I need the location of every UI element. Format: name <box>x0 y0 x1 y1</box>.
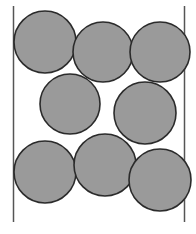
sphere-packing-figure <box>0 0 196 234</box>
sphere-1 <box>14 11 76 73</box>
sphere-8 <box>129 149 191 211</box>
figure-canvas <box>0 0 196 234</box>
sphere-7 <box>74 134 136 196</box>
sphere-5 <box>114 82 176 144</box>
sphere-6 <box>14 141 76 203</box>
sphere-2 <box>73 22 133 82</box>
sphere-3 <box>130 22 190 82</box>
sphere-4 <box>40 74 100 134</box>
